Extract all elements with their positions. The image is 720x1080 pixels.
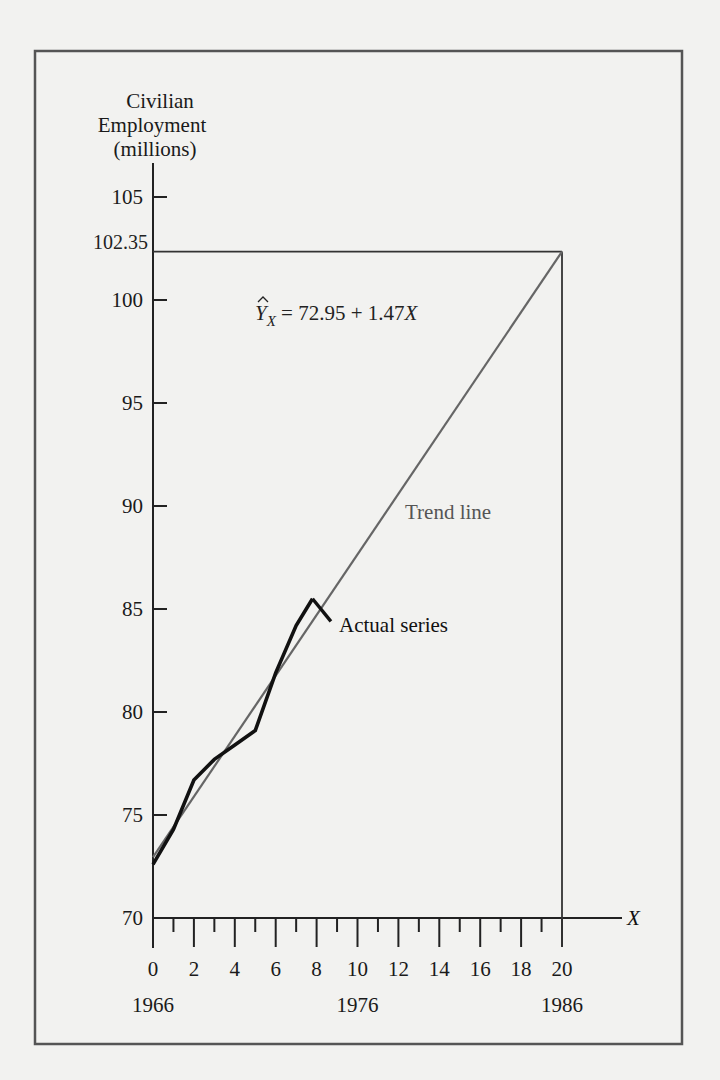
trend-equation: YX = 72.95 + 1.47X	[255, 301, 419, 329]
axes: 7075808590951001050246810121416182019661…	[112, 163, 623, 1017]
equation-rhs: = 72.95 + 1.47	[276, 301, 405, 325]
year-label: 1966	[132, 993, 174, 1017]
year-label: 1986	[541, 993, 583, 1017]
y-tick-label: 70	[122, 906, 143, 930]
actual-series-line	[153, 599, 313, 865]
x-tick-label: 14	[429, 957, 451, 981]
x-tick-label: 2	[189, 957, 200, 981]
series-layer	[153, 252, 562, 865]
x-tick-label: 12	[388, 957, 409, 981]
y-tick-label: 75	[122, 803, 143, 827]
x-tick-label: 16	[470, 957, 491, 981]
chart: Civilian Employment (millions) 707580859…	[0, 0, 720, 1080]
trend-line-label: Trend line	[405, 500, 491, 524]
equation-x: X	[404, 301, 419, 325]
y-tick-label: 100	[112, 288, 144, 312]
x-axis-label: X	[626, 906, 641, 930]
y-tick-label: 80	[122, 700, 143, 724]
trend-line	[153, 252, 562, 858]
y-tick-label: 105	[112, 185, 144, 209]
x-tick-label: 20	[552, 957, 573, 981]
x-tick-label: 8	[311, 957, 322, 981]
y-axis-title: Civilian Employment (millions)	[98, 89, 207, 161]
reference-value-label: 102.35	[93, 231, 148, 253]
y-tick-label: 90	[122, 494, 143, 518]
actual-series-label: Actual series	[339, 613, 448, 637]
x-tick-label: 0	[148, 957, 159, 981]
y-title-line-1: Civilian	[126, 89, 194, 113]
y-tick-label: 95	[122, 391, 143, 415]
y-title-line-3: (millions)	[114, 137, 197, 161]
x-tick-label: 4	[230, 957, 241, 981]
year-label: 1976	[337, 993, 379, 1017]
x-tick-label: 10	[347, 957, 368, 981]
y-title-line-2: Employment	[98, 113, 207, 137]
x-tick-label: 18	[511, 957, 532, 981]
y-tick-label: 85	[122, 597, 143, 621]
x-tick-label: 6	[270, 957, 281, 981]
